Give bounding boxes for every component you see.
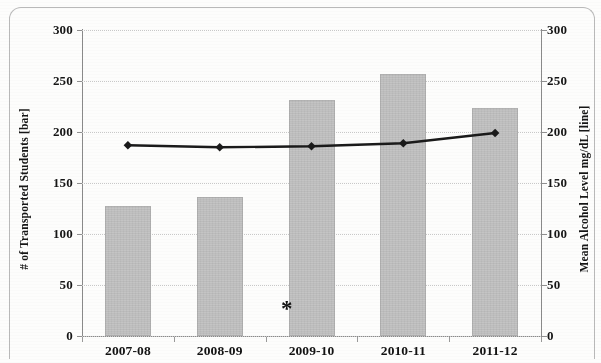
right-axis-tick bbox=[542, 183, 547, 184]
right-axis-tick-label: 250 bbox=[547, 73, 591, 89]
left-axis-tick bbox=[77, 285, 82, 286]
right-axis-tick bbox=[542, 285, 547, 286]
left-axis-tick-label: 100 bbox=[29, 226, 73, 242]
left-axis-tick-label: 50 bbox=[29, 277, 73, 293]
x-axis-label-2008-09: 2008-09 bbox=[172, 343, 268, 359]
right-axis-tick bbox=[542, 81, 547, 82]
right-axis-tick-label: 300 bbox=[547, 22, 591, 38]
left-axis-title: # of Transported Students [bar] bbox=[18, 89, 30, 289]
left-axis-tick-label: 0 bbox=[29, 328, 73, 344]
x-axis-tick bbox=[357, 337, 358, 342]
left-axis-tick-label: 150 bbox=[29, 175, 73, 191]
x-axis-label-2007-08: 2007-08 bbox=[80, 343, 176, 359]
x-axis-label-2010-11: 2010-11 bbox=[355, 343, 451, 359]
chart-page: 300250200150100500 300250200150100500 20… bbox=[0, 0, 601, 363]
x-axis-tick bbox=[449, 337, 450, 342]
right-axis-tick bbox=[542, 336, 547, 337]
right-axis-tick bbox=[542, 132, 547, 133]
right-axis-tick bbox=[542, 30, 547, 31]
x-axis-label-2011-12: 2011-12 bbox=[447, 343, 543, 359]
line-marker bbox=[215, 143, 224, 152]
gridline bbox=[82, 336, 541, 337]
left-axis-tick-label: 250 bbox=[29, 73, 73, 89]
plot-area bbox=[82, 30, 541, 336]
right-axis-tick-label: 0 bbox=[547, 328, 591, 344]
line-marker bbox=[491, 129, 500, 138]
left-axis-tick bbox=[77, 234, 82, 235]
left-axis-tick bbox=[77, 30, 82, 31]
asterisk-annotation: * bbox=[281, 297, 293, 320]
line-series bbox=[82, 30, 541, 336]
right-axis-tick bbox=[542, 234, 547, 235]
x-axis-tick bbox=[266, 337, 267, 342]
right-axis-title: Mean Alcohol Level mg/dL [line] bbox=[578, 89, 590, 289]
line-marker bbox=[124, 141, 133, 150]
line-markers bbox=[124, 129, 500, 152]
left-axis-tick bbox=[77, 183, 82, 184]
line-marker bbox=[307, 142, 316, 151]
x-axis-tick bbox=[541, 337, 542, 342]
x-axis-tick bbox=[174, 337, 175, 342]
left-axis-tick bbox=[77, 81, 82, 82]
left-axis-tick bbox=[77, 132, 82, 133]
x-axis-tick bbox=[82, 337, 83, 342]
line-marker bbox=[399, 139, 408, 148]
left-axis-tick-label: 300 bbox=[29, 22, 73, 38]
x-axis-label-2009-10: 2009-10 bbox=[264, 343, 360, 359]
left-axis-tick-label: 200 bbox=[29, 124, 73, 140]
